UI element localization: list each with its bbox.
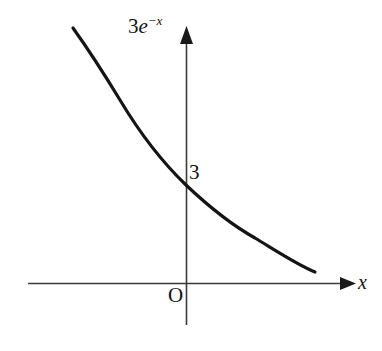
exponential-curve [73,28,315,272]
x-axis-arrowhead-icon [340,277,356,290]
y-axis-arrowhead-icon [180,26,193,44]
y-intercept-label: 3 [189,162,200,183]
x-axis-label: x [358,272,367,292]
y-axis-label-exponent: −x [148,13,163,28]
origin-label: O [168,285,183,306]
exponential-decay-figure: 3e−x 3 O x [0,0,382,351]
y-axis-function-label: 3e−x [128,14,162,37]
y-axis-label-base: e [139,14,148,38]
y-axis-label-coefficient: 3 [128,14,139,38]
